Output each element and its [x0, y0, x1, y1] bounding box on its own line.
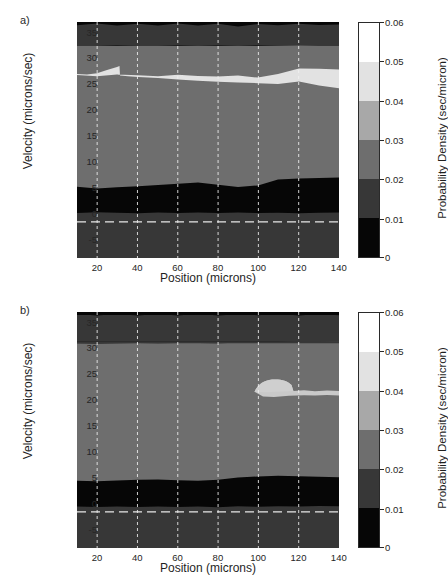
colorbar-band-0.03-0.04 — [359, 101, 379, 140]
panel-a-ytick-25: 25 — [57, 79, 97, 89]
colorbar-band-0.02-0.03 — [359, 140, 379, 179]
panel-a-cbtick-0.03: 0.03 — [385, 136, 404, 146]
panel-b-y-axis-label: Velocity (microns/sec) — [21, 311, 35, 491]
panel-a-cbtick-0.01: 0.01 — [385, 215, 404, 225]
panel-b: b) — [0, 290, 442, 580]
panel-b-ytick-10: 10 — [57, 447, 97, 457]
panel-a: a) — [0, 0, 442, 290]
panel-a-cbtick-0: 0 — [385, 253, 390, 263]
panel-a-ytick-15: 15 — [57, 131, 97, 141]
colorbar-band-0.05-0.06 — [359, 23, 379, 62]
colorbar-band-0.04-0.05 — [359, 352, 379, 391]
colorbar-band-0.01-0.02 — [359, 469, 379, 508]
panel-a-ytick-20: 20 — [57, 105, 97, 115]
colorbar-band-0.01-0.02 — [359, 179, 379, 218]
panel-b-cbtick-0.04: 0.04 — [385, 387, 404, 397]
colorbar-band-0-0.01 — [359, 218, 379, 257]
colorbar-band-0.04-0.05 — [359, 62, 379, 101]
panel-a-ytick-5: 5 — [57, 183, 97, 193]
panel-b-x-axis-label: Position (microns) — [77, 561, 339, 575]
panel-b-cbtick-0: 0 — [385, 543, 390, 553]
panel-a-colorbar — [358, 22, 380, 258]
panel-b-ytick-15: 15 — [57, 421, 97, 431]
panel-a-ytick-neg5: -5 — [57, 235, 97, 245]
panel-b-cbtick-0.03: 0.03 — [385, 426, 404, 436]
colorbar-band-0.05-0.06 — [359, 313, 379, 352]
panel-a-cbtick-0.05: 0.05 — [385, 57, 404, 67]
panel-a-y-axis-label: Velocity (microns/sec) — [21, 21, 35, 201]
panel-b-ytick-25: 25 — [57, 369, 97, 379]
panel-b-ytick-0: 0 — [57, 499, 97, 509]
panel-b-cbtick-0.02: 0.02 — [385, 465, 404, 475]
panel-a-cbtick-0.06: 0.06 — [385, 18, 404, 28]
panel-a-x-axis-label: Position (microns) — [77, 271, 339, 285]
panel-b-ytick-20: 20 — [57, 395, 97, 405]
panel-b-colorbar-label: Probability Density (sec/micron) — [436, 308, 448, 548]
panel-b-contour-map — [77, 312, 339, 548]
panel-b-ytick-5: 5 — [57, 473, 97, 483]
panel-b-ytick-30: 30 — [57, 343, 97, 353]
panel-b-cbtick-0.01: 0.01 — [385, 505, 404, 515]
panel-b-plot-area — [77, 312, 339, 548]
panel-b-colorbar — [358, 312, 380, 548]
panel-a-ytick-0: 0 — [57, 209, 97, 219]
panel-a-plot-area — [77, 22, 339, 258]
colorbar-band-0-0.01 — [359, 508, 379, 547]
panel-a-colorbar-label: Probability Density (sec/micron) — [436, 18, 448, 258]
panel-a-ytick-10: 10 — [57, 157, 97, 167]
panel-b-ytick-35: 35 — [57, 318, 97, 328]
panel-a-contour-map — [77, 22, 339, 258]
colorbar-band-0.03-0.04 — [359, 391, 379, 430]
panel-a-ytick-30: 30 — [57, 53, 97, 63]
panel-b-cbtick-0.06: 0.06 — [385, 308, 404, 318]
panel-a-ytick-35: 35 — [57, 28, 97, 38]
colorbar-band-0.02-0.03 — [359, 430, 379, 469]
panel-b-cbtick-0.05: 0.05 — [385, 347, 404, 357]
panel-a-cbtick-0.04: 0.04 — [385, 97, 404, 107]
panel-a-cbtick-0.02: 0.02 — [385, 175, 404, 185]
panel-b-ytick-neg5: -5 — [57, 525, 97, 535]
